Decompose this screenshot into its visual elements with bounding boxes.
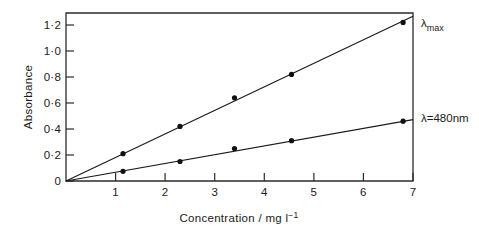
y-axis-title: Absorbance [22,65,34,129]
series-lambda-max-fit-line [66,16,413,181]
series-label-lambda-max: λmax [421,17,444,33]
y-tick-label-0: 0 [54,175,61,187]
y-tick-label-0-6: 0·6 [44,97,61,109]
absorbance-concentration-figure: 0 0·2 0·4 0·6 0·8 1·0 1·2 1 2 3 4 5 6 7 [0,0,479,233]
lambda-max-subscript: max [427,23,445,33]
y-axis-tick-labels: 0 0·2 0·4 0·6 0·8 1·0 1·2 [44,19,62,187]
y-tick-label-1-2: 1·2 [44,19,61,31]
chart-canvas: 0 0·2 0·4 0·6 0·8 1·0 1·2 1 2 3 4 5 6 7 [0,0,479,233]
x-axis-title-exponent: −1 [288,210,298,220]
x-axis-title-main: Concentration / mg l [179,212,288,224]
data-point [232,95,237,100]
x-tick-label-7: 7 [410,186,417,198]
data-point [177,159,182,164]
x-axis-tick-labels: 1 2 3 4 5 6 7 [112,186,416,198]
data-point [120,169,125,174]
data-point [177,124,182,129]
x-tick-label-2: 2 [162,186,169,198]
data-point [232,146,237,151]
data-point [401,20,406,25]
y-tick-label-0-8: 0·8 [44,71,61,83]
data-point [401,119,406,124]
x-axis-title: Concentration / mg l−1 [179,210,298,224]
y-tick-label-1-0: 1·0 [44,45,61,57]
data-point [289,72,294,77]
y-axis-ticks [66,25,74,181]
y-tick-label-0-4: 0·4 [44,123,62,135]
x-tick-label-1: 1 [112,186,119,198]
series-lambda-480-fit-line [66,120,413,181]
x-tick-label-3: 3 [211,186,218,198]
x-axis-ticks [116,173,413,181]
data-point [289,138,294,143]
x-tick-label-5: 5 [311,186,318,198]
data-point [120,151,125,156]
x-tick-label-6: 6 [360,186,367,198]
y-tick-label-0-2: 0·2 [44,149,61,161]
series-label-lambda-480: λ=480nm [421,112,469,124]
x-tick-label-4: 4 [261,186,268,198]
